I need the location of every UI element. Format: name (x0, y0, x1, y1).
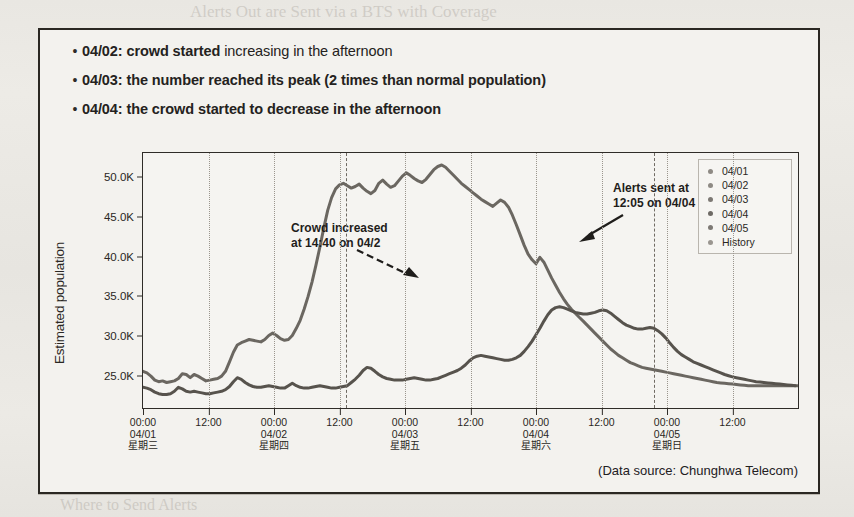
population-chart: Estimated population Crowd increased at … (40, 142, 818, 490)
legend-color-dot-icon (708, 225, 713, 230)
y-axis-tick: 30.0K (104, 330, 143, 342)
y-axis-tick: 25.0K (104, 370, 143, 382)
x-axis-tick-mark (602, 408, 603, 415)
x-axis-tick-weekday: 星期五 (390, 440, 420, 452)
chart-gridline (667, 153, 668, 408)
x-axis-tick-weekday: 星期日 (652, 440, 682, 452)
y-axis-tick: 35.0K (104, 290, 143, 302)
legend-item[interactable]: 04/02 (704, 178, 786, 192)
legend-color-dot-icon (708, 169, 713, 174)
y-axis-tick: 50.0K (104, 171, 143, 183)
x-axis-tick: 00:0004/01星期三 (128, 408, 158, 452)
x-axis-tick-mark (405, 408, 406, 415)
chart-gridline (405, 153, 406, 408)
chart-gridline (471, 153, 472, 408)
annotation-alerts-sent-arrow (575, 211, 630, 251)
x-axis-tick-date: 04/03 (390, 429, 420, 441)
x-axis-tick-date: 04/05 (652, 429, 682, 441)
legend-label: 04/04 (722, 208, 748, 220)
chart-gridline (733, 153, 734, 408)
chart-gridline (340, 153, 341, 408)
legend-label: 04/02 (722, 179, 748, 191)
x-axis-tick-weekday: 星期三 (128, 440, 158, 452)
legend-label: 04/03 (722, 193, 748, 205)
x-axis-tick-date: 04/04 (521, 429, 551, 441)
x-axis-tick-mark (143, 408, 144, 415)
legend-item[interactable]: 04/01 (704, 164, 786, 178)
x-axis-tick-mark (471, 408, 472, 415)
chart-gridline (274, 153, 275, 408)
bullet-item: •04/03: the number reached its peak (2 t… (68, 69, 788, 91)
x-axis-tick-time: 12:00 (195, 417, 221, 429)
bullet-marker-icon: • (68, 40, 82, 62)
x-axis-tick-time: 00:00 (652, 417, 682, 429)
legend-color-dot-icon (708, 183, 713, 188)
x-axis-tick: 12:00 (719, 408, 745, 429)
chart-plot-area: Crowd increased at 14:40 on 04/2 Alerts … (142, 152, 799, 409)
x-axis-tick-date: 04/02 (259, 429, 289, 441)
chart-gridline (602, 153, 603, 408)
chart-gridline (209, 153, 210, 408)
x-axis-tick: 00:0004/05星期日 (652, 408, 682, 452)
bullet-text: 04/03: the number reached its peak (2 ti… (82, 69, 546, 91)
slide-frame: •04/02: crowd started increasing in the … (38, 28, 820, 494)
x-axis-tick-time: 00:00 (259, 417, 289, 429)
x-axis-tick: 12:00 (326, 408, 352, 429)
x-axis-tick-time: 12:00 (588, 417, 614, 429)
x-axis-tick-time: 00:00 (128, 417, 158, 429)
legend-color-dot-icon (708, 197, 713, 202)
data-source-note: (Data source: Chunghwa Telecom) (598, 463, 798, 478)
y-axis-tick: 40.0K (104, 251, 143, 263)
x-axis-tick-time: 00:00 (390, 417, 420, 429)
event-marker-line (346, 153, 347, 408)
legend-label: 04/01 (722, 165, 748, 177)
x-axis-tick-weekday: 星期四 (259, 440, 289, 452)
event-marker-line (654, 153, 655, 408)
legend-color-dot-icon (708, 240, 713, 245)
x-axis-tick: 12:00 (457, 408, 483, 429)
x-axis-tick-weekday: 星期六 (521, 440, 551, 452)
chart-gridline (536, 153, 537, 408)
annotation-crowd-increased-arrow (355, 248, 425, 282)
x-axis-tick: 12:00 (195, 408, 221, 429)
x-axis-tick-mark (733, 408, 734, 415)
x-axis-tick-time: 12:00 (326, 417, 352, 429)
bullet-marker-icon: • (68, 98, 82, 120)
legend-label: 04/05 (722, 222, 748, 234)
bullet-text: 04/04: the crowd started to decrease in … (82, 98, 441, 120)
legend-item[interactable]: 04/05 (704, 221, 786, 235)
x-axis-tick-time: 12:00 (719, 417, 745, 429)
x-axis-tick-mark (274, 408, 275, 415)
legend-item[interactable]: 04/04 (704, 207, 786, 221)
bullet-item: •04/04: the crowd started to decrease in… (68, 98, 788, 120)
y-axis-tick: 45.0K (104, 211, 143, 223)
x-axis-tick-time: 00:00 (521, 417, 551, 429)
chart-line-history (143, 307, 795, 395)
x-axis-tick: 00:0004/03星期五 (390, 408, 420, 452)
x-axis-tick-mark (667, 408, 668, 415)
legend-color-dot-icon (708, 211, 713, 216)
x-axis-tick: 00:0004/04星期六 (521, 408, 551, 452)
x-axis-tick-time: 12:00 (457, 417, 483, 429)
bullet-list: •04/02: crowd started increasing in the … (68, 40, 788, 127)
legend-item[interactable]: History (704, 235, 786, 249)
bullet-item: •04/02: crowd started increasing in the … (68, 40, 788, 62)
legend-label: History (722, 236, 755, 248)
x-axis-tick-mark (536, 408, 537, 415)
x-axis-tick-date: 04/01 (128, 429, 158, 441)
bullet-marker-icon: • (68, 69, 82, 91)
x-axis-tick-mark (209, 408, 210, 415)
y-axis-label: Estimated population (48, 198, 70, 408)
x-axis-tick: 12:00 (588, 408, 614, 429)
chart-legend: 04/0104/0204/0304/0404/05History (698, 159, 792, 254)
legend-item[interactable]: 04/03 (704, 192, 786, 206)
x-axis-tick-mark (340, 408, 341, 415)
bullet-text: 04/02: crowd started increasing in the a… (82, 40, 392, 62)
x-axis-tick: 00:0004/02星期四 (259, 408, 289, 452)
